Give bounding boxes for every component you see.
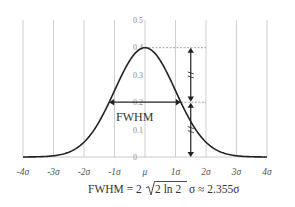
fwhm-formula: FWHM = 2 2 ln 2 σ ≈ 2.355σ bbox=[88, 182, 240, 196]
y-tick-label: 0.5 bbox=[133, 16, 143, 25]
fwhm-label: FWHM bbox=[116, 110, 154, 124]
x-tick-label: 1σ bbox=[171, 167, 181, 177]
upper-arrowhead-bottom bbox=[188, 97, 194, 102]
x-tick-label: 4σ bbox=[262, 167, 272, 177]
formula-rhs: σ ≈ 2.355σ bbox=[189, 183, 240, 195]
x-tick-label: -3σ bbox=[47, 167, 60, 177]
x-tick-label: 2σ bbox=[201, 167, 211, 177]
vertical-gridlines bbox=[23, 20, 267, 157]
x-tick-label: μ bbox=[142, 167, 148, 177]
x-tick-label: -4σ bbox=[17, 167, 30, 177]
x-tick-label: 3σ bbox=[231, 167, 242, 177]
y-axis-ticks: 00.10.20.30.40.5 bbox=[133, 16, 143, 162]
x-axis-ticks: -4σ-3σ-2σ-1σμ1σ2σ3σ4σ bbox=[17, 167, 272, 177]
lower-arrowhead-top bbox=[188, 103, 194, 108]
x-tick-label: -1σ bbox=[108, 167, 121, 177]
fwhm-chart: 00.10.20.30.40.5 -4σ-3σ-2σ-1σμ1σ2σ3σ4σ F… bbox=[0, 0, 295, 207]
upper-arrowhead-top bbox=[188, 48, 194, 53]
lower-arrowhead-bottom bbox=[188, 152, 194, 157]
formula-lhs: FWHM = 2 bbox=[88, 183, 142, 195]
y-tick-label: 0 bbox=[133, 153, 137, 162]
y-tick-label: 0.3 bbox=[133, 71, 143, 80]
x-tick-label: -2σ bbox=[78, 167, 91, 177]
y-tick-label: 0.1 bbox=[133, 126, 143, 135]
formula-radicand: 2 ln 2 bbox=[155, 183, 181, 195]
